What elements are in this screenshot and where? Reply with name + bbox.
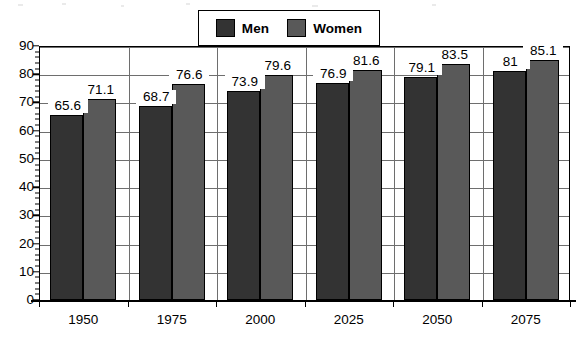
y-axis-tick-label: 80 [4, 67, 34, 81]
bar-value-label: 85.1 [523, 44, 563, 58]
bar-value-label: 79.6 [258, 59, 298, 73]
x-axis-category-label: 2025 [304, 312, 394, 327]
scan-artifact [186, 3, 190, 5]
bar-men-2025 [316, 83, 349, 300]
bar-value-label: 81.6 [346, 54, 386, 68]
bar-value-label: 68.7 [136, 90, 176, 104]
legend-item-men: Men [216, 19, 269, 37]
y-axis-tick-label: 60 [4, 124, 34, 138]
chart-legend: Men Women [198, 10, 380, 46]
x-axis-category-label: 2050 [392, 312, 482, 327]
y-axis-tick-label: 90 [4, 39, 34, 53]
legend-item-women: Women [287, 19, 362, 37]
legend-label-women: Women [313, 21, 362, 36]
legend-swatch-men-icon [216, 19, 235, 37]
x-axis-category-label: 1950 [38, 312, 128, 327]
y-axis-tick-label: 0 [4, 293, 34, 307]
scan-artifact [62, 3, 66, 5]
bar-women-2075 [526, 60, 559, 300]
bar-women-2025 [349, 70, 382, 300]
y-axis-tick-label: 10 [4, 265, 34, 279]
legend-swatch-women-icon [287, 19, 306, 37]
scan-artifact [312, 5, 318, 7]
y-axis-tick-label: 50 [4, 152, 34, 166]
bar-value-label: 83.5 [435, 48, 475, 62]
bar-women-2000 [260, 75, 293, 300]
y-axis-tick-label: 40 [4, 180, 34, 194]
bar-men-2000 [227, 91, 260, 300]
bar-value-label: 71.1 [81, 83, 121, 97]
x-axis-baseline [31, 300, 576, 302]
scan-artifact [432, 4, 436, 6]
bar-value-label: 76.6 [169, 68, 209, 82]
y-axis-tick-label: 30 [4, 209, 34, 223]
bar-value-label: 76.9 [313, 67, 353, 81]
x-axis-category-label: 2075 [481, 312, 571, 327]
bar-women-2050 [437, 64, 470, 300]
legend-label-men: Men [242, 21, 269, 36]
y-axis-tick-label: 70 [4, 96, 34, 110]
bar-men-2075 [493, 71, 526, 300]
bar-value-label: 73.9 [225, 75, 265, 89]
bar-women-1975 [172, 84, 205, 300]
x-axis-category-label: 2000 [215, 312, 305, 327]
y-axis: 0102030405060708090 [0, 0, 34, 350]
bar-men-2050 [404, 77, 437, 300]
bar-men-1975 [139, 106, 172, 300]
bar-chart: Men Women 0102030405060708090 195065.671… [0, 0, 587, 350]
bar-men-1950 [50, 115, 83, 300]
x-axis-category-label: 1975 [127, 312, 217, 327]
y-axis-tick-label: 20 [4, 237, 34, 251]
bar-women-1950 [83, 99, 116, 300]
bar-value-label: 65.6 [48, 99, 88, 113]
scan-artifact [121, 5, 124, 7]
bar-value-label: 79.1 [402, 61, 442, 75]
